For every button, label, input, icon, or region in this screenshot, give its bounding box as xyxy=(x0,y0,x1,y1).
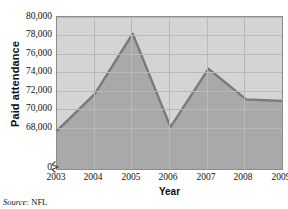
x-tick-2003: 2003 xyxy=(39,172,73,182)
chart-figure: Paid attendance 80,000 7 xyxy=(0,0,288,209)
plot-area xyxy=(56,16,283,170)
chart-title xyxy=(56,0,283,3)
x-tick-2008: 2008 xyxy=(226,172,260,182)
y-axis-title: Paid attendance xyxy=(9,14,21,154)
plot-inner xyxy=(57,17,282,169)
x-tick-2009: 2009 xyxy=(264,172,288,182)
gridline-2005 xyxy=(131,17,132,169)
gridline-2004 xyxy=(94,17,95,169)
gridline-2007 xyxy=(207,17,208,169)
x-axis-title: Year xyxy=(56,186,283,197)
source-value: NFL xyxy=(31,197,47,207)
x-tick-2004: 2004 xyxy=(76,172,110,182)
gridline-2006 xyxy=(169,17,170,169)
x-tick-2007: 2007 xyxy=(189,172,223,182)
y-tick-0: 0 xyxy=(8,163,52,172)
source-note: Source: NFL xyxy=(3,197,47,207)
source-label: Source: xyxy=(3,197,29,207)
x-tick-2005: 2005 xyxy=(114,172,148,182)
gridline-2008 xyxy=(244,17,245,169)
x-tick-2006: 2006 xyxy=(151,172,185,182)
